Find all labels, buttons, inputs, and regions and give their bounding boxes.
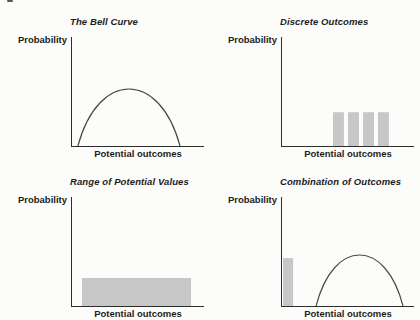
plot-area [281,197,414,307]
chart-title: Range of Potential Values [70,176,189,187]
plot-area [71,197,204,307]
y-axis-label: Probability [210,194,277,205]
y-axis-label: Probability [210,34,277,45]
panel-bell-curve: The Bell Curve Probability Potential out… [0,0,210,160]
y-axis-label: Probability [0,194,67,205]
panel-combination-of-outcomes: Combination of Outcomes Probability Pote… [210,160,420,320]
range-area-plot [72,197,204,306]
panel-range-of-values: Range of Potential Values Probability Po… [0,160,210,320]
bar [283,258,293,306]
bar [333,112,344,146]
bar [378,112,389,146]
x-axis-label: Potential outcomes [281,148,415,159]
plot-area [71,37,204,147]
plot-area [281,37,414,147]
bell-curve-line [316,255,403,306]
bar [348,112,359,146]
x-axis-label: Potential outcomes [71,148,205,159]
combination-plot [282,197,414,306]
bar [363,112,374,146]
x-axis-label: Potential outcomes [71,308,205,319]
chart-title: Combination of Outcomes [280,176,401,187]
chart-title: The Bell Curve [70,16,138,27]
panel-discrete-outcomes: Discrete Outcomes Probability Potential … [210,0,420,160]
bell-curve-plot [72,37,204,146]
discrete-bars-plot [282,37,414,146]
bell-curve-line [78,89,180,146]
chart-title: Discrete Outcomes [280,16,368,27]
figure-four-panel-distributions: The Bell Curve Probability Potential out… [0,0,420,320]
bar [82,278,191,306]
y-axis-label: Probability [0,34,67,45]
x-axis-label: Potential outcomes [281,308,415,319]
